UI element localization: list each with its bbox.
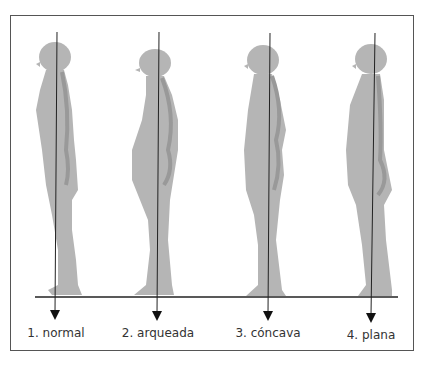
plumb-lines [55,32,375,315]
arrow-down-icon [263,311,273,321]
arrow-down-icon [50,310,60,320]
posture-diagram [0,0,425,367]
figure-normal [36,42,82,295]
label-concava: 3. cóncava [235,326,300,340]
arrow-heads [50,310,376,323]
label-normal: 1. normal [27,326,84,340]
arrow-down-icon [366,313,376,323]
label-plana: 4. plana [347,328,396,342]
label-arqueada: 2. arqueada [122,326,194,340]
arrow-down-icon [152,311,162,321]
